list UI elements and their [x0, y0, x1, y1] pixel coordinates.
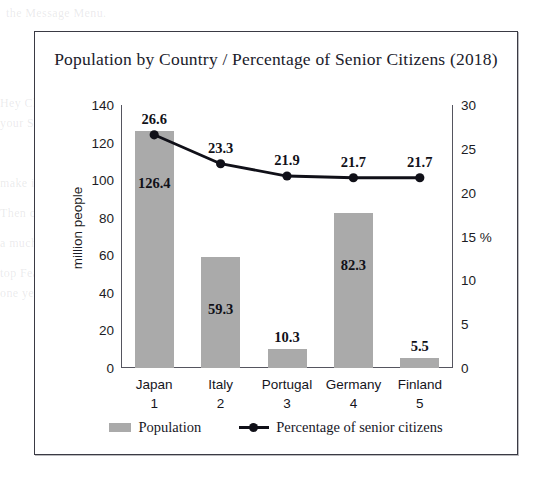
- y-axis-right-tick: 10: [461, 273, 476, 288]
- bar-value-germany: 82.3: [323, 257, 383, 274]
- y-axis-right-tick: 0: [461, 361, 469, 376]
- legend-label-population: Population: [138, 419, 201, 436]
- line-marker-finland[interactable]: [415, 173, 424, 182]
- legend-item-percentage[interactable]: Percentage of senior citizens: [239, 419, 442, 436]
- bar-japan[interactable]: [135, 131, 174, 368]
- pct-value-finland: 21.7: [390, 154, 450, 171]
- bar-value-italy: 59.3: [191, 301, 251, 318]
- line-marker-italy[interactable]: [216, 159, 225, 168]
- legend-line-marker-icon: [239, 422, 269, 433]
- legend-bar-swatch-icon: [109, 423, 131, 432]
- y-axis-left-tick: 20: [99, 323, 114, 338]
- legend-item-population[interactable]: Population: [109, 419, 201, 436]
- line-marker-portugal[interactable]: [282, 171, 291, 180]
- y-axis-left-tick: 40: [99, 285, 114, 300]
- y-axis-right-tick: 25: [461, 141, 476, 156]
- y-axis-right-tick: 5: [461, 317, 469, 332]
- chart-panel: Population by Country / Percentage of Se…: [34, 31, 518, 455]
- y-axis-right-tick: 15 %: [461, 229, 492, 244]
- y-axis-left-tick: 0: [106, 361, 114, 376]
- x-rank-finland: 5: [375, 396, 465, 411]
- pct-value-italy: 23.3: [191, 140, 251, 157]
- pct-value-portugal: 21.9: [257, 152, 317, 169]
- bar-value-finland: 5.5: [390, 338, 450, 355]
- bar-portugal[interactable]: [268, 349, 307, 368]
- pct-value-japan: 26.6: [124, 111, 184, 128]
- y-axis-left-line: [121, 105, 122, 368]
- bar-value-japan: 126.4: [124, 175, 184, 192]
- plot-area: 140120100806040200 30252015 %1050 126.45…: [121, 105, 453, 368]
- line-marker-germany[interactable]: [349, 173, 358, 182]
- y-axis-right-line: [452, 105, 453, 368]
- y-axis-right-tick: 30: [461, 98, 476, 113]
- y-axis-left-tick: 80: [99, 210, 114, 225]
- x-label-finland: Finland: [375, 377, 465, 392]
- y-axis-left-tick: 60: [99, 248, 114, 263]
- legend-label-percentage: Percentage of senior citizens: [276, 419, 442, 436]
- pct-value-germany: 21.7: [323, 154, 383, 171]
- bar-finland[interactable]: [400, 358, 439, 368]
- y-axis-right-tick: 20: [461, 185, 476, 200]
- chart-legend: Population Percentage of senior citizens: [35, 419, 517, 436]
- bar-value-portugal: 10.3: [257, 329, 317, 346]
- y-axis-left-tick: 100: [91, 173, 114, 188]
- background-bleed-text-1: the Message Menu.: [6, 6, 106, 21]
- bar-germany[interactable]: [334, 213, 373, 368]
- chart-title: Population by Country / Percentage of Se…: [35, 49, 517, 70]
- y-axis-left-tick: 120: [91, 135, 114, 150]
- y-axis-left-label: million people: [70, 187, 85, 270]
- y-axis-left-tick: 140: [91, 98, 114, 113]
